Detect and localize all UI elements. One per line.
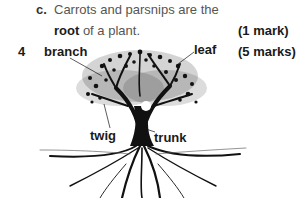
label-trunk: trunk xyxy=(154,130,187,145)
tree-illustration xyxy=(30,46,250,198)
label-branch: branch xyxy=(44,44,87,59)
marks-label-c: (1 mark) xyxy=(238,23,289,38)
question-letter: c. xyxy=(36,2,47,17)
question-text-line1: Carrots and parsnips are the xyxy=(54,2,219,17)
answer-word: root xyxy=(54,23,79,38)
question-number: 4 xyxy=(18,44,25,59)
question-text-line2: root of a plant. xyxy=(54,23,140,38)
label-leaf: leaf xyxy=(194,42,216,57)
question-text-rest: of a plant. xyxy=(79,23,140,38)
label-twig: twig xyxy=(90,128,116,143)
